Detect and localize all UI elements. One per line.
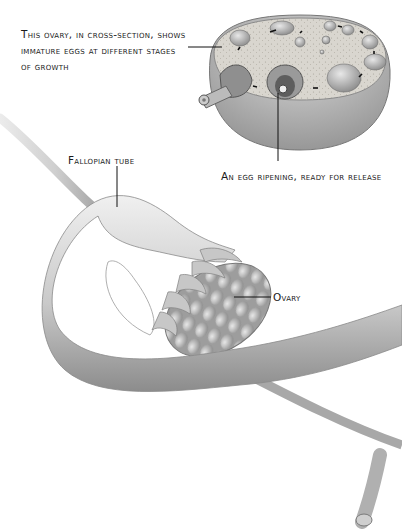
label-ovary: Ovary (273, 289, 333, 305)
ovary-cross-section (199, 15, 390, 150)
label-fallopian-tube: Fallopian tube (68, 152, 178, 168)
vessel-bundle (362, 455, 380, 522)
anatomy-diagram: This ovary, in cross-section, shows imma… (0, 0, 402, 529)
label-cross-section: This ovary, in cross-section, shows imma… (21, 26, 186, 74)
label-egg-ripening: An egg ripening, ready for release (221, 168, 401, 184)
illustration (0, 0, 402, 529)
